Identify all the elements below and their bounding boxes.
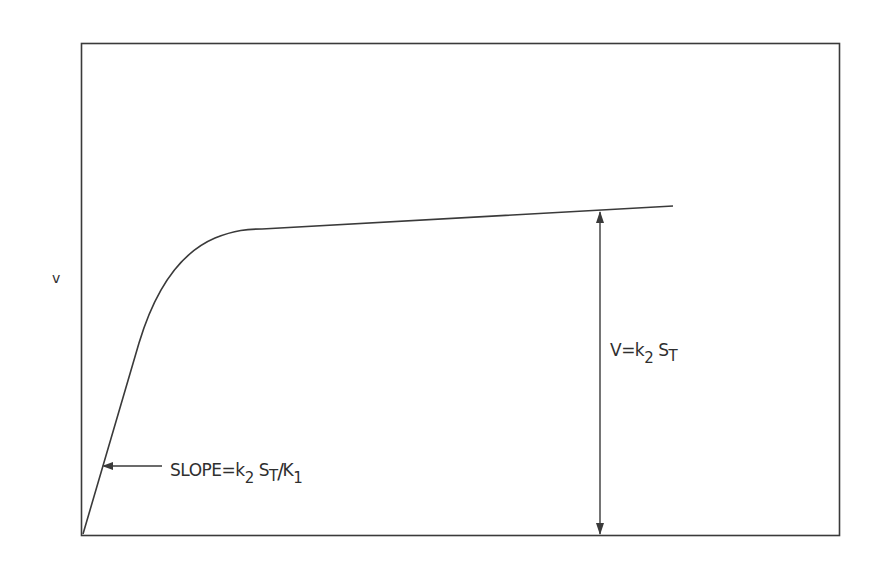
slope-prefix: SLOPE= <box>170 460 235 480</box>
slope-k: k <box>235 460 244 480</box>
slope-divider: / <box>277 461 283 483</box>
vmax-lhs: V=k <box>610 340 644 360</box>
saturation-curve <box>83 206 673 534</box>
vmax-equation: V=k2ST <box>610 342 677 359</box>
slope-s-subscript: T <box>269 467 278 485</box>
y-axis-label: v <box>52 271 60 285</box>
slope-K-subscript: 1 <box>293 469 302 487</box>
slope-s: S <box>259 460 269 480</box>
slope-equation: SLOPE=k2ST/K1 <box>170 458 302 480</box>
slope-k-subscript: 2 <box>245 469 254 487</box>
slope-K: K <box>283 460 294 480</box>
diagram-canvas <box>0 0 881 571</box>
vmax-s-subscript: T <box>669 347 678 365</box>
vmax-k-subscript: 2 <box>644 349 653 367</box>
vmax-s: S <box>658 340 668 360</box>
vmax-arrowhead-top <box>596 211 604 223</box>
vmax-arrowhead-bottom <box>596 523 604 535</box>
